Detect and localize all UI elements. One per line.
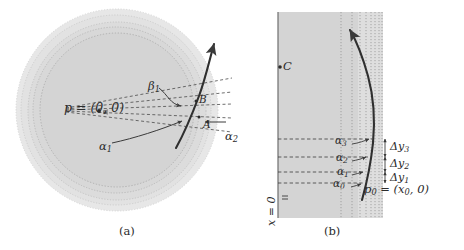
- delta-y3-subscript: 3: [404, 145, 409, 154]
- panel-a-caption: (a): [119, 226, 135, 238]
- panel-a-alpha1-label: α1: [99, 141, 112, 153]
- panel-b-p0-label: p0 = (x0, 0): [364, 184, 429, 196]
- alpha2-glyph: α: [225, 129, 233, 143]
- alpha1-glyph: α: [99, 139, 107, 153]
- alpha2b-subscript: 2: [343, 156, 348, 165]
- point-B-marker: [195, 100, 198, 103]
- panel-a-alpha2-label: α2: [225, 131, 238, 143]
- panel-b-alpha2-label: α2: [336, 152, 348, 164]
- panel-a-center-label: p = (0, 0): [64, 102, 124, 115]
- delta-y2-subscript: 2: [404, 162, 409, 171]
- beta1-glyph: β: [148, 79, 155, 93]
- figure-canvas: [0, 0, 464, 250]
- panel-a-beta1-label: β1: [148, 81, 160, 93]
- panel-b-axis-label: x = 0: [266, 197, 277, 226]
- p0-value-close: , 0): [410, 182, 429, 196]
- panel-b-delta-y2-label: Δy2: [390, 158, 409, 171]
- delta-y3-glyph: Δy: [390, 140, 404, 153]
- panel-a-point-A-label: A: [203, 119, 211, 130]
- alpha2-subscript: 2: [233, 134, 238, 144]
- panel-b-point-C-label: C: [283, 61, 292, 73]
- panel-b-alpha3-label: α3: [335, 135, 347, 147]
- panel-b-alpha0-label: α0: [333, 178, 345, 190]
- alpha3-subscript: 3: [342, 139, 347, 148]
- alpha0-subscript: 0: [340, 182, 345, 191]
- p0-value-open: = (x: [377, 182, 405, 196]
- beta1-subscript: 1: [155, 84, 160, 94]
- delta-y2-glyph: Δy: [390, 157, 404, 170]
- point-A-marker: [198, 116, 201, 119]
- alpha1-subscript: 1: [107, 144, 112, 154]
- panel-b-delta-y3-label: Δy3: [390, 141, 409, 154]
- panel-a-point-B-label: B: [199, 94, 207, 105]
- panel-b-caption: (b): [324, 226, 340, 238]
- point-C-marker: [278, 65, 282, 69]
